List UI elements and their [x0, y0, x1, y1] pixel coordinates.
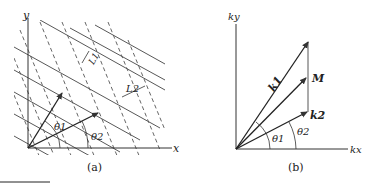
theta2-arc — [82, 121, 88, 148]
theta2-label-b: θ2 — [297, 126, 309, 137]
k1-label: k1 — [266, 74, 285, 94]
theta2-label: θ2 — [91, 131, 103, 142]
kx-axis-label: kx — [350, 144, 362, 155]
theta1-label: θ1 — [54, 121, 66, 132]
theta2-arc-b — [289, 122, 296, 149]
ky-axis-label: ky — [228, 11, 240, 22]
panel-a-caption: (a) — [87, 161, 102, 174]
L2-label: L2 — [125, 83, 139, 94]
panel-b: ky kx k1 M k2 θ1 θ2 (b) — [228, 11, 362, 174]
theta1-label-b: θ1 — [272, 133, 284, 144]
M-label: M — [311, 72, 325, 85]
diagram-canvas: y x θ1 θ2 L1 L2 (a) ky kx k1 M k2 — [0, 0, 368, 183]
y-axis-label: y — [22, 9, 30, 22]
panel-a: y x θ1 θ2 L1 L2 (a) — [0, 9, 180, 182]
panel-b-caption: (b) — [288, 161, 304, 174]
k2-label: k2 — [310, 109, 326, 122]
x-axis-label: x — [173, 142, 180, 155]
